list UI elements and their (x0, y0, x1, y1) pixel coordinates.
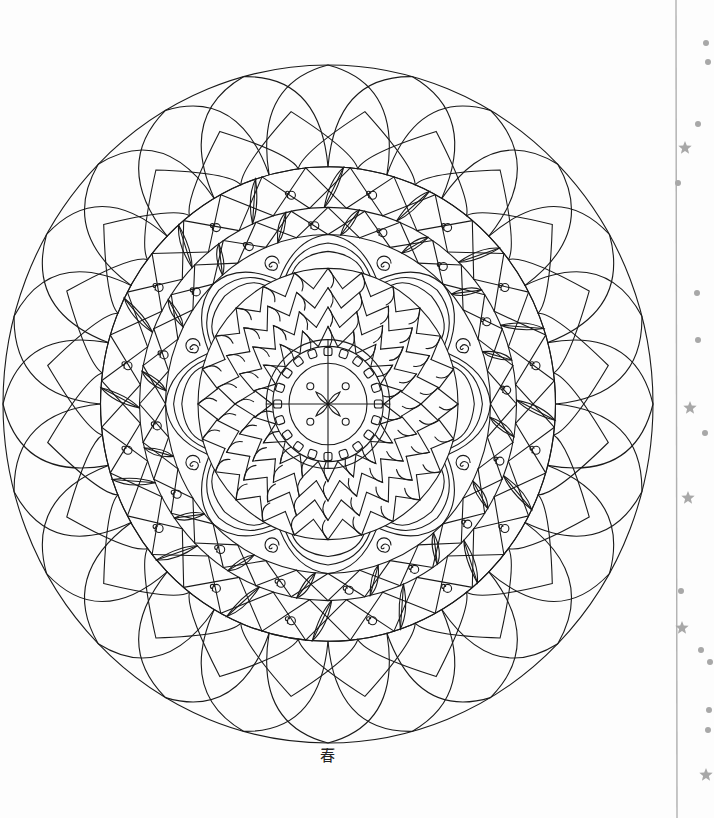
decorated-margin-strip (672, 0, 714, 818)
coloring-page: 春 Mandala coloring page (0, 0, 714, 818)
mandala-drawing (0, 0, 714, 818)
artist-signature: 春 (320, 744, 335, 765)
